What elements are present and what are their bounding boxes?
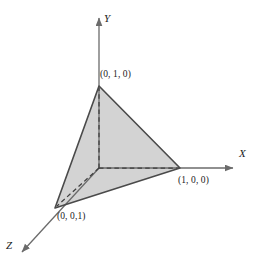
y-axis-label: Y: [104, 13, 110, 24]
vertex-label-x: (1, 0, 0): [178, 176, 209, 186]
z-axis-label: Z: [6, 240, 12, 251]
vertex-label-z: (0, 0,1): [57, 212, 86, 222]
coordinate-axes-diagram: [0, 0, 261, 264]
figure-canvas: Y X Z (0, 1, 0) (1, 0, 0) (0, 0,1): [0, 0, 261, 264]
z-axis-line: [22, 168, 99, 252]
x-axis-label: X: [239, 148, 246, 159]
vertex-label-y: (0, 1, 0): [100, 70, 131, 80]
